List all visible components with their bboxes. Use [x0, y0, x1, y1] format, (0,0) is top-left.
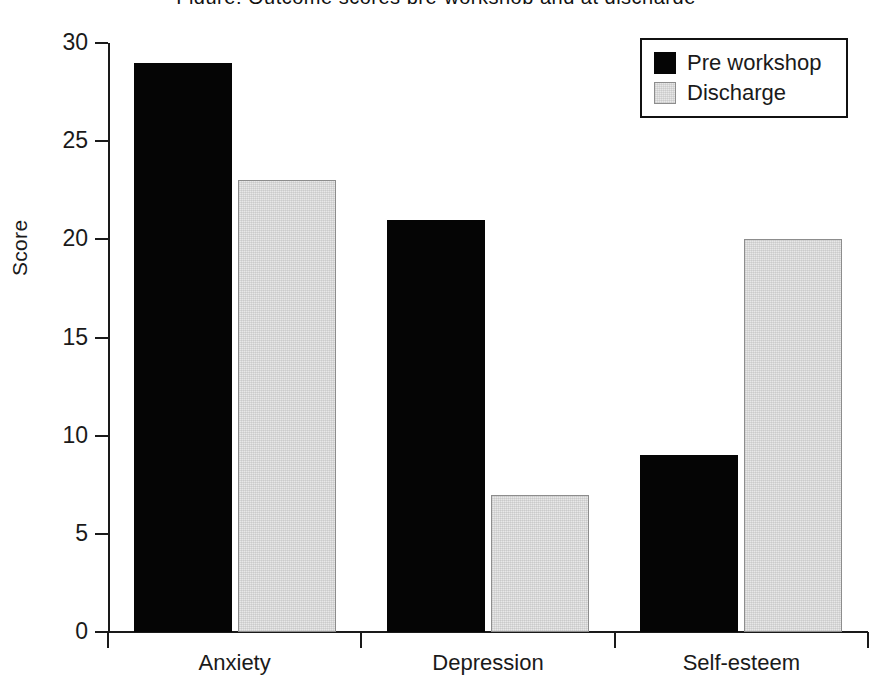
- x-category-label-depression: Depression: [361, 650, 614, 676]
- chart-legend: Pre workshopDischarge: [640, 38, 848, 118]
- bar-anxiety-pre-workshop: [134, 63, 232, 632]
- bar-anxiety-discharge: [238, 180, 336, 632]
- x-category-label-self-esteem: Self-esteem: [615, 650, 868, 676]
- y-tick-label: 30: [32, 31, 88, 54]
- y-tick-label: 20: [32, 227, 88, 250]
- bar-self-esteem-discharge: [744, 239, 842, 632]
- y-tick-label: 0: [32, 620, 88, 643]
- y-tick-label: 25: [32, 129, 88, 152]
- legend-item-pre-workshop[interactable]: Pre workshop: [654, 52, 834, 74]
- legend-item-discharge[interactable]: Discharge: [654, 82, 834, 104]
- bar-chart-figure: Score 302520151050 AnxietyDepressionSelf…: [0, 0, 872, 690]
- black-square-icon: [654, 52, 676, 74]
- bar-depression-pre-workshop: [387, 220, 485, 632]
- y-tick-label: 10: [32, 424, 88, 447]
- light-gray-square-icon: [654, 82, 676, 104]
- legend-item-label: Discharge: [687, 82, 786, 104]
- y-axis-ticks: 302520151050: [0, 0, 108, 690]
- x-tick-mark: [867, 632, 869, 648]
- y-tick-label: 5: [32, 522, 88, 545]
- y-tick-mark: [95, 140, 108, 142]
- bar-depression-discharge: [491, 495, 589, 632]
- bar-self-esteem-pre-workshop: [640, 455, 738, 632]
- y-tick-label: 15: [32, 326, 88, 349]
- x-tick-mark: [360, 632, 362, 648]
- x-tick-mark: [107, 632, 109, 648]
- legend-item-label: Pre workshop: [687, 52, 822, 74]
- y-tick-mark: [95, 337, 108, 339]
- x-tick-mark: [614, 632, 616, 648]
- y-axis-line: [108, 43, 110, 633]
- y-tick-mark: [95, 238, 108, 240]
- y-tick-mark: [95, 435, 108, 437]
- y-tick-mark: [95, 533, 108, 535]
- y-tick-mark: [95, 42, 108, 44]
- x-category-label-anxiety: Anxiety: [108, 650, 361, 676]
